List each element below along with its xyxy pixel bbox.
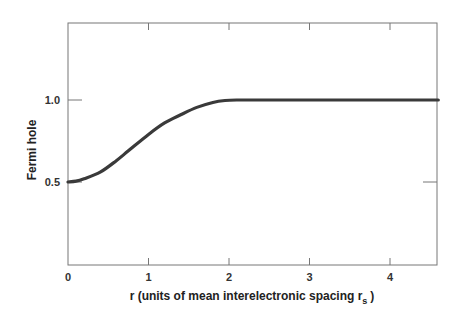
- plot-frame: [68, 23, 437, 265]
- axis-tick-labels: 012340.51.0: [45, 94, 394, 283]
- chart: 012340.51.0 Fermi hole r (units of mean …: [0, 0, 453, 314]
- axis-ticks: [68, 23, 437, 265]
- x-tick-label: 0: [65, 271, 71, 283]
- x-tick-label: 2: [226, 271, 232, 283]
- x-tick-label: 1: [145, 271, 151, 283]
- y-tick-label: 1.0: [45, 94, 60, 106]
- fermi-hole-curve: [68, 100, 438, 182]
- y-axis-title: Fermi hole: [25, 119, 39, 180]
- x-tick-label: 4: [387, 271, 394, 283]
- y-tick-label: 0.5: [45, 176, 60, 188]
- x-tick-label: 3: [306, 271, 312, 283]
- x-axis-title: r (units of mean interelectronic spacing…: [130, 289, 375, 306]
